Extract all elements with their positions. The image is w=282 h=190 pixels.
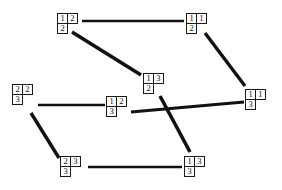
tableau-row: 3	[106, 106, 126, 117]
edge-12-2--13-2	[72, 32, 141, 75]
tableau-cell: 2	[67, 13, 78, 24]
tableau-row: 2	[186, 23, 206, 34]
tableau-row: 3	[245, 99, 265, 110]
edge-12-3--11-3	[131, 102, 244, 112]
tableau-row: 2	[143, 83, 163, 94]
edge-11-2--11-3	[205, 33, 245, 86]
tableau-cell: 3	[70, 156, 81, 167]
tableau-cell: 2	[116, 96, 127, 107]
tableau-row: 3	[12, 94, 32, 105]
tableau-cell: 3	[194, 156, 205, 167]
tableau-cell: 3	[60, 166, 71, 177]
node-12-2[interactable]: 122	[57, 13, 77, 34]
edge-22-3--23-3	[31, 113, 59, 158]
node-23-3[interactable]: 233	[60, 156, 80, 177]
tableau-cell: 3	[245, 99, 256, 110]
node-11-3[interactable]: 113	[245, 89, 265, 110]
edge-layer	[0, 0, 282, 190]
node-12-3[interactable]: 123	[106, 96, 126, 117]
tableau-cell: 3	[106, 106, 117, 117]
tableau-row: 3	[184, 166, 204, 177]
tableau-row: 3	[60, 166, 80, 177]
edge-13-2--13-3	[160, 96, 190, 152]
diagram-canvas: 122112132223123113233133	[0, 0, 282, 190]
node-13-2[interactable]: 132	[143, 73, 163, 94]
tableau-cell: 3	[12, 94, 23, 105]
tableau-cell: 2	[57, 23, 68, 34]
tableau-cell: 1	[255, 89, 266, 100]
tableau-cell: 2	[22, 84, 33, 95]
tableau-cell: 2	[186, 23, 197, 34]
node-22-3[interactable]: 223	[12, 84, 32, 105]
tableau-cell: 3	[184, 166, 195, 177]
tableau-cell: 3	[153, 73, 164, 84]
tableau-row: 2	[57, 23, 77, 34]
tableau-cell: 1	[196, 13, 207, 24]
node-13-3[interactable]: 133	[184, 156, 204, 177]
tableau-cell: 2	[143, 83, 154, 94]
node-11-2[interactable]: 112	[186, 13, 206, 34]
